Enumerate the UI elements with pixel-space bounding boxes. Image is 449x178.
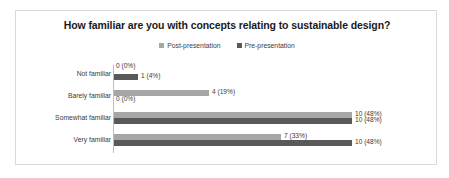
bar-value-pre-very-familiar: 10 (48%) <box>355 138 382 145</box>
plot-area: Not familiar 0 (0%) 1 (4%) Barely famili… <box>16 61 438 161</box>
chart-title: How familiar are you with concepts relat… <box>16 19 438 31</box>
category-label-very-familiar: Very familiar <box>21 129 111 151</box>
legend-item-pre-presentation[interactable]: Pre-presentation <box>237 42 295 49</box>
chart-legend: Post-presentation Pre-presentation <box>16 42 438 49</box>
bar-value-post-not-familiar: 0 (0%) <box>116 62 135 69</box>
bar-value-pre-barely-familiar: 0 (0%) <box>116 95 135 102</box>
category-group-2: Somewhat familiar 10 (48%) 10 (48%) <box>16 107 438 129</box>
legend-label-pre-presentation: Pre-presentation <box>245 42 295 49</box>
category-label-not-familiar: Not familiar <box>21 63 111 85</box>
bar-pre-somewhat-familiar[interactable] <box>114 118 352 124</box>
legend-item-post-presentation[interactable]: Post-presentation <box>159 42 220 49</box>
bar-value-post-very-familiar: 7 (33%) <box>284 132 307 139</box>
category-group-1: Barely familiar 4 (19%) 0 (0%) <box>16 85 438 107</box>
category-group-0: Not familiar 0 (0%) 1 (4%) <box>16 63 438 85</box>
legend-label-post-presentation: Post-presentation <box>167 42 220 49</box>
bar-pre-very-familiar[interactable] <box>114 140 352 146</box>
category-label-barely-familiar: Barely familiar <box>21 85 111 107</box>
category-label-somewhat-familiar: Somewhat familiar <box>21 107 111 129</box>
bar-value-post-barely-familiar: 4 (19%) <box>212 88 235 95</box>
bar-pre-not-familiar[interactable] <box>114 74 138 80</box>
bar-value-pre-not-familiar: 1 (4%) <box>141 72 160 79</box>
bar-value-pre-somewhat-familiar: 10 (48%) <box>355 116 382 123</box>
legend-swatch-pre-presentation <box>237 43 242 48</box>
legend-swatch-post-presentation <box>159 43 164 48</box>
chart-container: How familiar are you with concepts relat… <box>15 10 437 165</box>
category-group-3: Very familiar 7 (33%) 10 (48%) <box>16 129 438 151</box>
